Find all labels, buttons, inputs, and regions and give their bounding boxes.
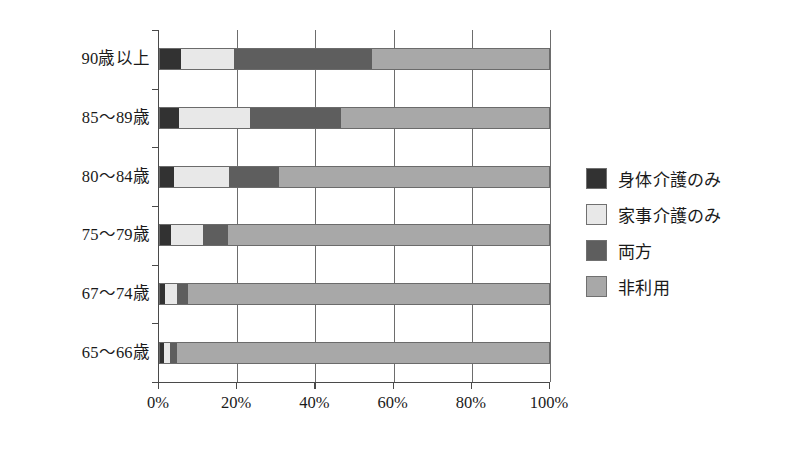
- bar-segment: [159, 166, 174, 188]
- legend-swatch-icon: [586, 276, 607, 297]
- bar-row: [159, 107, 550, 129]
- y-axis-tick: [152, 206, 159, 207]
- gridline: [550, 30, 551, 382]
- x-axis-tick: [549, 382, 550, 389]
- gridline: [472, 30, 473, 382]
- x-axis-tick-label: 0%: [123, 392, 193, 414]
- legend-label: 身体介護のみ: [618, 166, 722, 191]
- bar-segment: [279, 166, 550, 188]
- y-axis-tick: [152, 323, 159, 324]
- x-axis-tick: [236, 382, 237, 389]
- bar-row: [159, 224, 550, 246]
- x-axis-tick: [471, 382, 472, 389]
- x-axis-tick-label: 80%: [436, 392, 506, 414]
- bar-segment: [177, 283, 188, 305]
- bar-row: [159, 342, 550, 364]
- bar-segment: [159, 48, 181, 70]
- gridline: [237, 30, 238, 382]
- x-axis-tick: [314, 382, 315, 389]
- y-axis-label: 85〜89歳: [0, 107, 150, 129]
- bar-row: [159, 166, 550, 188]
- bar-segment: [341, 107, 550, 129]
- bar-segment: [250, 107, 341, 129]
- legend-item[interactable]: 身体介護のみ: [586, 160, 786, 196]
- bar-segment: [171, 224, 203, 246]
- legend-item[interactable]: 家事介護のみ: [586, 196, 786, 232]
- bar-row: [159, 283, 550, 305]
- legend-item[interactable]: 非利用: [586, 268, 786, 304]
- bar-segment: [203, 224, 228, 246]
- y-axis-tick: [152, 147, 159, 148]
- bar-row: [159, 48, 550, 70]
- y-axis-label: 67〜74歳: [0, 283, 150, 305]
- bar-segment: [165, 283, 177, 305]
- plot-area: [158, 30, 549, 382]
- y-axis-tick: [152, 89, 159, 90]
- legend-swatch-icon: [586, 240, 607, 261]
- x-axis-tick-label: 20%: [201, 392, 271, 414]
- bar-segment: [179, 107, 250, 129]
- legend-label: 家事介護のみ: [618, 202, 722, 227]
- x-axis-tick: [158, 382, 159, 389]
- bar-segment: [188, 283, 550, 305]
- bar-segment: [372, 48, 550, 70]
- bar-segment: [234, 48, 372, 70]
- y-axis-tick: [152, 30, 159, 31]
- legend-item[interactable]: 両方: [586, 232, 786, 268]
- y-axis-label: 65〜66歳: [0, 342, 150, 364]
- y-axis-labels: 90歳以上85〜89歳80〜84歳75〜79歳67〜74歳65〜66歳: [0, 30, 150, 382]
- x-axis-line: [158, 382, 549, 383]
- x-axis-tick-label: 100%: [514, 392, 584, 414]
- legend-swatch-icon: [586, 204, 607, 225]
- y-axis-label: 75〜79歳: [0, 224, 150, 246]
- legend: 身体介護のみ家事介護のみ両方非利用: [586, 160, 786, 304]
- x-axis-tick: [393, 382, 394, 389]
- y-axis-label: 80〜84歳: [0, 166, 150, 188]
- bar-segment: [159, 107, 179, 129]
- gridline: [394, 30, 395, 382]
- bar-segment: [181, 48, 234, 70]
- bar-segment: [229, 166, 279, 188]
- legend-label: 両方: [618, 238, 653, 263]
- y-axis-tick: [152, 265, 159, 266]
- x-axis-tick-label: 40%: [279, 392, 349, 414]
- bar-segment: [174, 166, 229, 188]
- bar-segment: [170, 342, 177, 364]
- legend-label: 非利用: [618, 274, 670, 299]
- bar-segment: [159, 224, 171, 246]
- legend-swatch-icon: [586, 168, 607, 189]
- bar-segment: [177, 342, 550, 364]
- stacked-bar-chart: 90歳以上85〜89歳80〜84歳75〜79歳67〜74歳65〜66歳 0%20…: [0, 0, 795, 450]
- gridline: [315, 30, 316, 382]
- y-axis-label: 90歳以上: [0, 48, 150, 70]
- bar-segment: [228, 224, 550, 246]
- x-axis-tick-label: 60%: [358, 392, 428, 414]
